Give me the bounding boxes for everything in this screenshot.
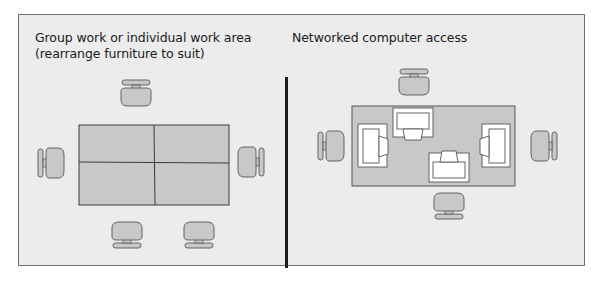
chair-icon xyxy=(112,222,142,248)
chair-icon xyxy=(38,148,64,178)
chair-icon xyxy=(318,131,344,161)
chair-icon xyxy=(531,131,557,161)
chair-icon xyxy=(238,147,264,177)
chair-icon xyxy=(399,69,429,95)
computer-monitor-icon xyxy=(393,108,433,140)
chair-icon xyxy=(434,193,464,219)
floor-plan-drawing xyxy=(0,0,604,283)
computer-monitor-icon xyxy=(480,124,510,167)
chair-icon xyxy=(121,80,151,106)
computer-monitor-icon xyxy=(429,151,469,182)
group-tables xyxy=(79,125,229,205)
chair-icon xyxy=(184,222,214,248)
computer-monitor-icon xyxy=(358,124,388,167)
